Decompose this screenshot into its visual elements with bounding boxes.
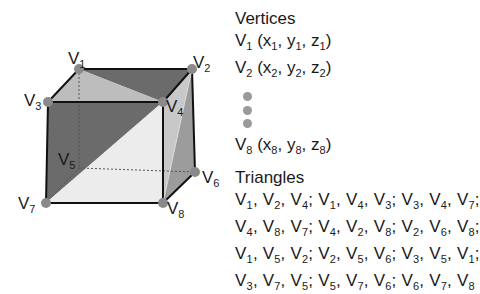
- triangle-entry: V5, V7, V6;: [318, 271, 401, 290]
- vertex-label-v3: V3: [24, 92, 41, 115]
- triangle-row: V4, V8, V7; V4, V2, V8; V2, V6, V8;: [235, 216, 480, 243]
- triangle-entry: V2, V5, V6;: [318, 244, 401, 263]
- vertex-label-v7: V7: [18, 195, 35, 218]
- cube-svg: [0, 0, 230, 284]
- vertex-label-v2: V2: [193, 54, 210, 77]
- triangles-list: V1, V2, V4; V1, V4, V3; V3, V4, V7; V4, …: [235, 189, 480, 294]
- triangle-entry: V1, V5, V2;: [235, 244, 318, 263]
- triangle-entry: V6, V7, V8: [401, 271, 474, 290]
- vertex-label-v5: V5: [58, 151, 75, 174]
- triangle-entry: V3, V7, V5;: [235, 271, 318, 290]
- vertices-heading: Vertices: [235, 8, 480, 30]
- ellipsis-dot: [243, 106, 252, 115]
- triangle-row: V1, V2, V4; V1, V4, V3; V3, V4, V7;: [235, 189, 480, 216]
- vertex-label-v1: V1: [68, 50, 85, 73]
- text-panel: Vertices V1 (x1, y1, z1) V2 (x2, y2, z2)…: [235, 8, 480, 294]
- vertex-entry-1: V1 (x1, y1, z1): [235, 30, 480, 57]
- vertex-entry-2: V2 (x2, y2, z2): [235, 57, 480, 84]
- triangle-entry: V3, V4, V7;: [401, 190, 479, 209]
- triangle-entry: V3, V5, V1;: [401, 244, 479, 263]
- triangle-entry: V4, V2, V8;: [318, 217, 401, 236]
- ellipsis-dot: [243, 92, 252, 101]
- ellipsis-dots: [243, 84, 480, 134]
- triangle-entry: V1, V4, V3;: [318, 190, 401, 209]
- ellipsis-dot: [243, 119, 252, 128]
- triangle-entry: V2, V6, V8;: [401, 217, 479, 236]
- triangle-row: V3, V7, V5; V5, V7, V6; V6, V7, V8: [235, 270, 480, 294]
- vertex-label-v4: V4: [166, 98, 183, 121]
- vertex-label-v6: V6: [202, 169, 219, 192]
- triangle-entry: V1, V2, V4;: [235, 190, 318, 209]
- vertex-label-v8: V8: [167, 200, 184, 223]
- triangle-row: V1, V5, V2; V2, V5, V6; V3, V5, V1;: [235, 243, 480, 270]
- cube-diagram: V1 V2 V3 V4 V5 V6 V7 V8: [0, 0, 230, 284]
- triangles-heading: Triangles: [235, 167, 480, 189]
- triangle-entry: V4, V8, V7;: [235, 217, 318, 236]
- vertex-entry-8: V8 (x8, y8, z8): [235, 134, 480, 161]
